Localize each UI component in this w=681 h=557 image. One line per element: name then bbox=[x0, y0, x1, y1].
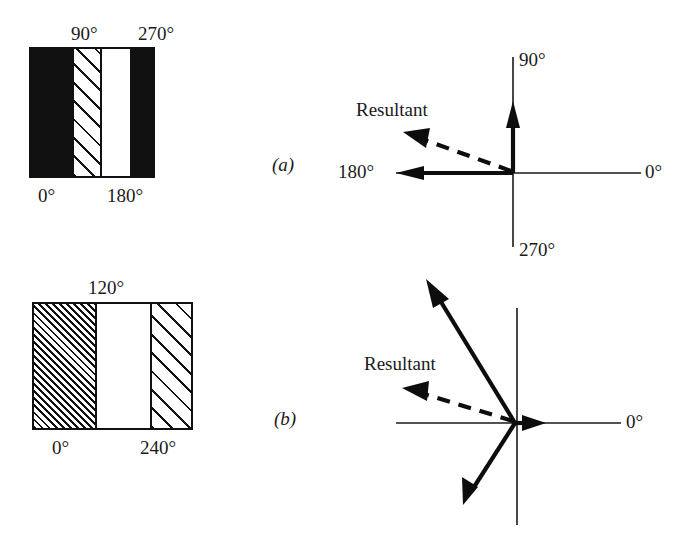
vector-b-resultant-label: Resultant bbox=[364, 354, 436, 373]
vector-b-120deg-shaft bbox=[438, 297, 515, 423]
vector-b-axis-label-right: 0° bbox=[626, 412, 643, 431]
vector-b-0deg-arrowhead bbox=[522, 415, 546, 431]
panel-b-vector-svg bbox=[0, 0, 681, 557]
figure-canvas: 90° 270° 0° 180° 120° 0° 240° (a) (b) bbox=[0, 0, 681, 557]
vector-b-120deg-arrowhead bbox=[426, 279, 449, 308]
vector-b-240deg-shaft bbox=[474, 423, 515, 487]
vector-b-resultant-arrowhead bbox=[402, 381, 429, 401]
